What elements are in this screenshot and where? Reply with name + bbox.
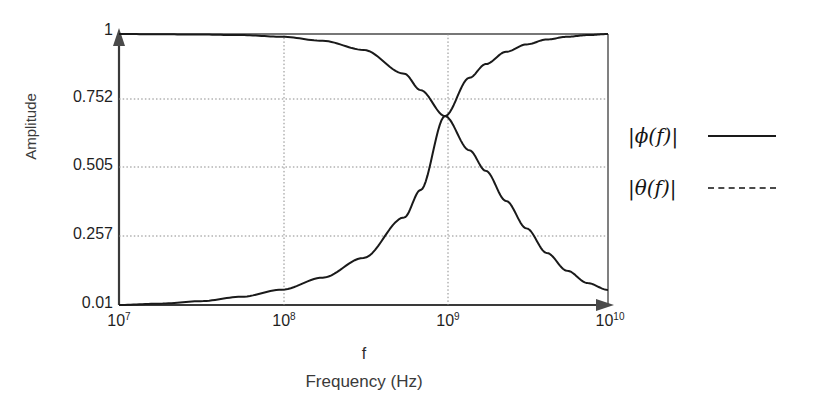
legend-swatch-theta [708,182,776,194]
curve-theta-magnitude [119,34,608,305]
legend-entry-phi: |ϕ(f)| [628,110,808,162]
plot-frame [119,34,608,305]
x-axis-symbol: f [362,345,366,363]
x-tick-base: 10 [596,312,614,329]
legend-swatch-phi [708,130,776,142]
x-tick-label-1e10: 1010 [596,312,625,330]
x-tick-label-1e7: 107 [107,312,130,330]
x-tick-exponent: 7 [125,311,131,322]
data-curves [119,34,608,305]
chart-figure: Amplitude 1 0.752 0.505 0.257 0.01 [0,0,813,418]
curve-phi-magnitude [119,34,608,290]
x-tick-label-1e9: 109 [436,312,459,330]
legend-label-phi: |ϕ(f)| [628,124,700,148]
x-tick-exponent: 9 [454,311,460,322]
x-tick-exponent: 8 [290,311,296,322]
x-tick-label-1e8: 108 [272,312,295,330]
x-tick-exponent: 10 [613,311,624,322]
vertical-gridlines [284,34,448,305]
legend-entry-theta: |θ(f)| [628,162,808,214]
y-axis-arrow-icon [113,28,125,46]
horizontal-gridlines [119,99,608,236]
x-axis-title: Frequency (Hz) [305,372,422,392]
x-tick-base: 10 [436,312,454,329]
x-axis-arrow-icon [596,299,614,311]
chart-legend: |ϕ(f)| |θ(f)| [628,110,808,214]
legend-label-theta: |θ(f)| [628,176,700,200]
x-tick-base: 10 [272,312,290,329]
x-tick-base: 10 [107,312,125,329]
